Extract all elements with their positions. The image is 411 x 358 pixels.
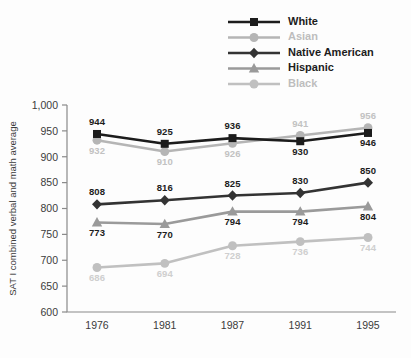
data-point-label: 736 xyxy=(292,246,308,257)
data-point-label: 794 xyxy=(225,216,242,227)
legend-item-asian[interactable]: Asian xyxy=(228,30,318,42)
data-point-marker xyxy=(228,241,237,250)
series-native-american: 808816825830850 xyxy=(89,165,376,210)
legend-marker-icon xyxy=(250,18,258,26)
data-point-label: 694 xyxy=(157,268,174,279)
data-point-marker xyxy=(160,195,170,205)
data-point-marker xyxy=(364,129,372,137)
y-axis-tick-label: 900 xyxy=(40,151,58,163)
data-point-label: 910 xyxy=(157,156,173,167)
y-axis-tick-label: 700 xyxy=(40,254,58,266)
y-axis-tick-label: 1,000 xyxy=(32,99,58,111)
x-axis-tick-label: 1981 xyxy=(153,319,177,331)
data-point-label: 770 xyxy=(157,229,173,240)
data-point-label: 830 xyxy=(292,175,308,186)
legend: WhiteAsianNative AmericanHispanicBlack xyxy=(228,15,374,89)
data-point-label: 932 xyxy=(89,145,105,156)
legend-item-label: Hispanic xyxy=(288,61,334,73)
data-point-marker xyxy=(296,237,305,246)
y-axis-tick-label: 850 xyxy=(40,176,58,188)
data-point-marker xyxy=(229,134,237,142)
data-point-marker xyxy=(363,177,373,187)
data-point-label: 850 xyxy=(360,165,376,176)
legend-item-label: White xyxy=(288,15,318,27)
legend-item-hispanic[interactable]: Hispanic xyxy=(228,61,334,73)
legend-item-label: Asian xyxy=(288,30,318,42)
data-point-marker xyxy=(92,199,102,209)
data-point-label: 804 xyxy=(360,211,377,222)
data-point-marker xyxy=(228,190,238,200)
y-axis-title: SAT I combined verbal and math average xyxy=(7,121,18,295)
legend-item-label: Black xyxy=(288,77,318,89)
data-point-label: 930 xyxy=(292,146,308,157)
legend-item-label: Native American xyxy=(288,46,374,58)
data-point-marker xyxy=(160,259,169,268)
data-point-label: 825 xyxy=(225,178,242,189)
data-point-label: 925 xyxy=(157,126,174,137)
legend-marker-icon xyxy=(249,48,259,58)
chart-canvas: 6006507007508008509009501,000SAT I combi… xyxy=(0,0,411,358)
legend-item-black[interactable]: Black xyxy=(228,77,318,89)
data-point-label: 936 xyxy=(225,120,241,131)
data-point-marker xyxy=(93,263,102,272)
series-hispanic: 773770794794804 xyxy=(89,201,377,239)
data-point-marker xyxy=(160,147,169,156)
data-point-label: 926 xyxy=(225,148,241,159)
y-axis-tick-label: 600 xyxy=(40,306,58,318)
legend-marker-icon xyxy=(250,80,259,89)
legend-item-native-american[interactable]: Native American xyxy=(228,46,374,58)
legend-marker-icon xyxy=(250,33,259,42)
y-axis-tick-label: 650 xyxy=(40,280,58,292)
x-axis-labels-group: 19761981198719911995 xyxy=(85,319,380,331)
data-point-label: 944 xyxy=(89,116,106,127)
data-point-label: 686 xyxy=(89,272,105,283)
data-point-label: 744 xyxy=(360,242,377,253)
legend-item-white[interactable]: White xyxy=(228,15,318,27)
y-axis-tick-label: 800 xyxy=(40,202,58,214)
data-point-marker xyxy=(161,140,169,148)
data-point-marker xyxy=(93,130,101,138)
y-axis-tick-label: 750 xyxy=(40,228,58,240)
data-point-marker xyxy=(296,137,304,145)
sat-scores-line-chart: 6006507007508008509009501,000SAT I combi… xyxy=(0,0,411,358)
data-point-label: 728 xyxy=(225,250,241,261)
x-axis-tick-label: 1987 xyxy=(221,319,245,331)
data-point-label: 794 xyxy=(292,216,309,227)
x-axis-tick-label: 1995 xyxy=(356,319,380,331)
data-point-label: 773 xyxy=(89,227,105,238)
data-point-label: 816 xyxy=(157,182,173,193)
series-black: 686694728736744 xyxy=(89,233,377,283)
data-point-label: 956 xyxy=(360,110,376,121)
data-point-marker xyxy=(364,233,373,242)
x-axis-tick-label: 1976 xyxy=(85,319,109,331)
data-point-marker xyxy=(295,188,305,198)
data-point-label: 941 xyxy=(292,118,309,129)
y-axis-tick-label: 950 xyxy=(40,125,58,137)
data-point-label: 808 xyxy=(89,186,105,197)
x-axis-tick-label: 1991 xyxy=(289,319,313,331)
data-point-label: 946 xyxy=(360,137,376,148)
